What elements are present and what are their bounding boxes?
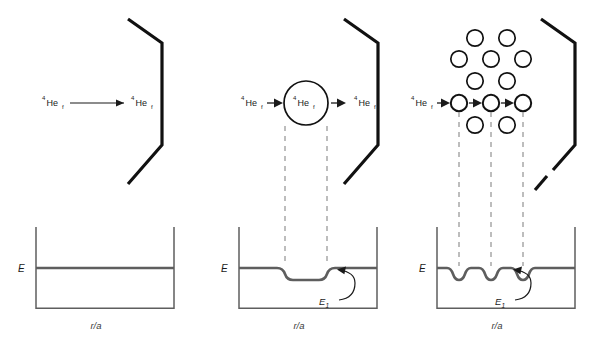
lattice-site-circle: 4 He f bbox=[284, 81, 328, 125]
incoming-arrow bbox=[267, 99, 283, 108]
transport-arrow bbox=[70, 99, 124, 106]
lattice-circle bbox=[467, 30, 483, 46]
hopping-arrows bbox=[437, 99, 514, 108]
outgoing-subscript: f bbox=[151, 104, 153, 110]
potential-curve bbox=[437, 268, 575, 280]
lattice-circle-active bbox=[451, 95, 467, 111]
lattice-circle-active bbox=[515, 95, 531, 111]
panel-single-site: 4 He f 4 He f 4 He bbox=[203, 0, 405, 339]
outgoing-element: He bbox=[136, 98, 148, 108]
energy-axis-label: E bbox=[18, 263, 25, 274]
outgoing-arrow bbox=[331, 99, 346, 108]
e1-label-sub: 1 bbox=[502, 302, 506, 309]
outgoing-species-label: 4 He f bbox=[131, 95, 153, 110]
incoming-element: He bbox=[416, 98, 428, 108]
outgoing-element: He bbox=[359, 98, 371, 108]
incoming-superscript: 4 bbox=[42, 95, 46, 101]
incoming-subscript: f bbox=[62, 104, 64, 110]
incoming-subscript: f bbox=[261, 104, 263, 110]
x-axis-label: r/a bbox=[293, 320, 304, 331]
lattice-circle bbox=[467, 117, 483, 133]
lattice-circle bbox=[515, 51, 531, 67]
incoming-element: He bbox=[47, 98, 59, 108]
projection-dashed-lines bbox=[285, 126, 327, 262]
potential-curve bbox=[239, 268, 377, 280]
incoming-superscript: 4 bbox=[411, 95, 415, 101]
panel-free-atom: 4 He f 4 He f E bbox=[0, 0, 202, 339]
lattice-circle bbox=[499, 30, 515, 46]
x-axis-label: r/a bbox=[90, 320, 101, 331]
outgoing-species-label: 4 He f bbox=[354, 95, 376, 110]
lattice-circle bbox=[483, 51, 499, 67]
barrier-wall bbox=[535, 19, 575, 190]
incoming-species-label: 4 He f bbox=[42, 95, 64, 110]
lattice-circles bbox=[451, 30, 531, 133]
outgoing-subscript: f bbox=[374, 104, 376, 110]
lattice-circle bbox=[499, 73, 515, 89]
incoming-element: He bbox=[246, 98, 258, 108]
e1-annotation: E 1 bbox=[319, 267, 355, 309]
incoming-species-label: 4 He f bbox=[411, 95, 433, 110]
e1-label-sub: 1 bbox=[326, 302, 330, 309]
outgoing-superscript: 4 bbox=[131, 95, 135, 101]
lattice-circle-active bbox=[483, 95, 499, 111]
lattice-circle bbox=[499, 117, 515, 133]
incoming-subscript: f bbox=[431, 104, 433, 110]
outgoing-superscript: 4 bbox=[354, 95, 358, 101]
panel-lattice: 4 He f bbox=[405, 0, 607, 339]
e1-annotation: E 1 bbox=[495, 267, 531, 309]
lattice-circle bbox=[451, 51, 467, 67]
physics-figure: 4 He f 4 He f E bbox=[0, 0, 607, 339]
energy-axis-label: E bbox=[419, 263, 426, 274]
incoming-superscript: 4 bbox=[241, 95, 245, 101]
x-axis-label: r/a bbox=[491, 320, 502, 331]
lattice-circle bbox=[467, 73, 483, 89]
circle-element: He bbox=[298, 98, 310, 108]
incoming-species-label: 4 He f bbox=[241, 95, 263, 110]
energy-axis-label: E bbox=[221, 263, 228, 274]
projection-dashed-lines bbox=[459, 112, 523, 266]
